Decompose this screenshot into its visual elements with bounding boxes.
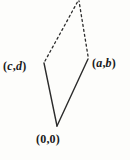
label-ab-close-paren: ): [112, 56, 116, 70]
edge-origin-to-cd: [44, 63, 57, 126]
edge-ab-to-apex: [79, 1, 88, 56]
edge-cd-to-apex: [45, 1, 78, 61]
label-origin-close-paren: ): [56, 132, 60, 146]
vertex-label-origin: (0,0): [36, 133, 60, 145]
vector-parallelogram-figure: (c,d) (a,b) (0,0): [0, 0, 130, 160]
label-cd-close-paren: ): [22, 59, 26, 73]
edge-origin-to-ab: [57, 59, 88, 126]
vertex-label-cd: (c,d): [3, 60, 26, 72]
vertex-label-ab: (a,b): [92, 57, 116, 69]
parallelogram-diagram-svg: [0, 0, 130, 160]
